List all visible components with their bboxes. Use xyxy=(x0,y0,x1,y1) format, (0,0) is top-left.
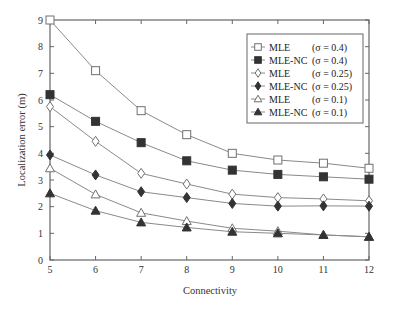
square-marker xyxy=(365,164,373,172)
diamond-marker xyxy=(92,136,99,146)
x-tick-label: 8 xyxy=(184,264,189,275)
y-tick-label: 3 xyxy=(38,175,43,186)
diamond-marker xyxy=(47,150,54,160)
y-tick-label: 2 xyxy=(38,201,43,212)
y-tick-label: 6 xyxy=(38,95,43,106)
y-tick-label: 4 xyxy=(38,148,43,159)
square-marker xyxy=(46,91,54,99)
square-marker xyxy=(365,175,373,183)
x-tick-label: 5 xyxy=(48,264,53,275)
triangle-marker xyxy=(91,190,100,198)
diamond-marker xyxy=(92,170,99,180)
legend-label: MLE-NC xyxy=(269,107,308,118)
diamond-marker xyxy=(183,193,190,203)
triangle-marker xyxy=(137,208,146,216)
diamond-marker xyxy=(183,179,190,189)
square-marker xyxy=(255,44,262,51)
triangle-marker xyxy=(46,164,55,172)
x-tick-label: 9 xyxy=(230,264,235,275)
square-marker xyxy=(319,173,327,181)
square-marker xyxy=(274,170,282,178)
y-tick-label: 1 xyxy=(38,228,43,239)
legend-sigma: (σ = 0.4) xyxy=(312,55,347,67)
y-axis-label: Localization error (m) xyxy=(16,93,28,187)
legend-sigma: (σ = 0.4) xyxy=(312,42,347,54)
square-marker xyxy=(255,57,262,64)
diamond-marker xyxy=(320,201,327,211)
legend-label: MLE xyxy=(269,42,290,53)
legend-label: MLE-NC xyxy=(269,81,308,92)
legend-sigma: (σ = 0.25) xyxy=(312,68,352,80)
line-chart: 567891011120123456789 MLE(σ = 0.4)MLE-NC… xyxy=(0,0,393,311)
diamond-marker xyxy=(47,102,54,112)
x-tick-label: 10 xyxy=(273,264,283,275)
square-marker xyxy=(183,131,191,139)
x-tick-label: 7 xyxy=(139,264,144,275)
y-tick-label: 9 xyxy=(38,15,43,26)
square-marker xyxy=(92,67,100,75)
diamond-marker xyxy=(229,198,236,208)
square-marker xyxy=(137,107,145,115)
y-tick-label: 5 xyxy=(38,121,43,132)
y-tick-label: 7 xyxy=(38,68,43,79)
x-tick-label: 11 xyxy=(319,264,329,275)
y-tick-label: 0 xyxy=(38,255,43,266)
square-marker xyxy=(274,156,282,164)
square-marker xyxy=(228,166,236,174)
square-marker xyxy=(137,139,145,147)
square-marker xyxy=(92,117,100,125)
legend-label: MLE xyxy=(269,94,290,105)
square-marker xyxy=(319,159,327,167)
x-tick-label: 12 xyxy=(364,264,374,275)
diamond-marker xyxy=(138,168,145,178)
legend-label: MLE-NC xyxy=(269,55,308,66)
square-marker xyxy=(46,16,54,24)
y-tick-label: 8 xyxy=(38,41,43,52)
x-tick-label: 6 xyxy=(93,264,98,275)
square-marker xyxy=(183,157,191,165)
legend-sigma: (σ = 0.1) xyxy=(312,94,347,106)
x-axis-label: Connectivity xyxy=(183,285,238,296)
legend-sigma: (σ = 0.1) xyxy=(312,107,347,119)
legend-sigma: (σ = 0.25) xyxy=(312,81,352,93)
diamond-marker xyxy=(274,201,281,211)
legend-label: MLE xyxy=(269,68,290,79)
triangle-marker xyxy=(46,189,55,197)
triangle-marker xyxy=(91,206,100,214)
legend: MLE(σ = 0.4)MLE-NC(σ = 0.4)MLE(σ = 0.25)… xyxy=(247,34,363,123)
diamond-marker xyxy=(138,187,145,197)
square-marker xyxy=(228,149,236,157)
